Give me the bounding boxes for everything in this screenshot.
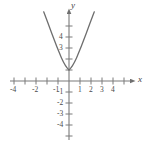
x-tick-label-neg2: -2 (32, 86, 38, 94)
x-tick-label-3: 3 (100, 86, 104, 94)
y-tick-label-4: 4 (59, 33, 63, 41)
y-tick-label-neg1: -1 (57, 88, 63, 96)
x-tick-label-2: 2 (89, 86, 93, 94)
y-tick-label-neg3: -3 (57, 110, 63, 118)
x-tick-label-neg4: -4 (10, 86, 16, 94)
coordinate-plane-figure: -4 -2 -1 1 2 3 4 4 3 -1 -2 -3 -4 x y (0, 0, 152, 146)
y-tick-label-neg2: -2 (57, 99, 63, 107)
x-tick-label-1: 1 (78, 86, 82, 94)
y-tick-label-3: 3 (59, 44, 63, 52)
graph-canvas (0, 0, 152, 146)
y-tick-label-neg4: -4 (57, 121, 63, 129)
x-tick-label-4: 4 (111, 86, 115, 94)
y-axis-label: y (71, 1, 75, 10)
x-axis-label: x (138, 75, 142, 84)
